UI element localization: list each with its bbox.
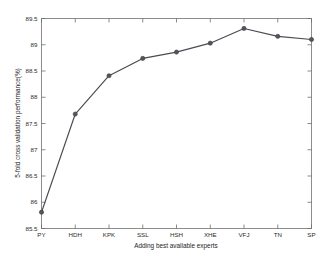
data-point-VFJ xyxy=(242,26,246,30)
x-tick-label: SSL xyxy=(137,231,149,238)
data-point-SSL xyxy=(141,56,145,60)
line-chart: 85.58686.58787.58888.58989.5 PYHDHKPKSSL… xyxy=(0,0,323,261)
y-tick-label: 89 xyxy=(31,41,38,48)
x-tick-label: PY xyxy=(37,231,45,238)
data-point-PY xyxy=(39,210,43,214)
x-tick-label: SP xyxy=(307,231,315,238)
data-point-XHE xyxy=(208,41,212,45)
x-tick-label: KPK xyxy=(103,231,116,238)
y-axis-title: 5-fold cross validation performance(%) xyxy=(14,68,22,177)
data-point-TN xyxy=(276,34,280,38)
y-tick-label: 89.5 xyxy=(25,15,38,22)
data-point-HDH xyxy=(73,112,77,116)
y-tick-label: 87 xyxy=(31,146,38,153)
x-tick-label: XHE xyxy=(204,231,217,238)
y-tick-label: 87.5 xyxy=(25,120,38,127)
x-axis-title: Adding best available experts xyxy=(134,242,218,250)
x-tick-label: HDH xyxy=(69,231,82,238)
y-tick-label: 86.5 xyxy=(25,172,38,179)
figure-background xyxy=(0,0,323,261)
y-tick-label: 88.5 xyxy=(25,67,38,74)
data-point-HSH xyxy=(174,50,178,54)
x-tick-label: VFJ xyxy=(238,231,249,238)
y-tick-label: 85.5 xyxy=(25,225,38,232)
data-point-SP xyxy=(309,37,313,41)
y-tick-label: 88 xyxy=(31,93,38,100)
x-tick-label: TN xyxy=(274,231,282,238)
chart-figure: 85.58686.58787.58888.58989.5 PYHDHKPKSSL… xyxy=(0,0,323,261)
x-tick-label: HSH xyxy=(170,231,183,238)
y-tick-label: 86 xyxy=(31,198,38,205)
data-point-KPK xyxy=(107,74,111,78)
